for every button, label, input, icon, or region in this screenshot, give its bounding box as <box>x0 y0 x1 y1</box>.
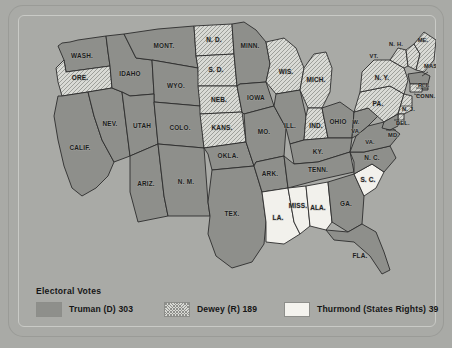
label-neb: NEB. <box>211 96 227 103</box>
label-ark: ARK. <box>262 170 278 177</box>
label-wyo: WYO. <box>167 82 185 89</box>
label-ky: KY. <box>313 148 324 155</box>
state-fla <box>326 224 390 274</box>
legend-item-dewey: Dewey (R) 189 <box>164 300 257 318</box>
label-minn: MINN. <box>240 42 259 49</box>
label-wis: WIS. <box>279 68 294 75</box>
label-ny: N. Y. <box>375 74 389 81</box>
label-mo: MO. <box>258 128 271 135</box>
label-sc: S. C. <box>360 176 375 183</box>
label-nh: N. H. <box>389 41 403 47</box>
label-nj: N. J. <box>402 106 415 112</box>
label-okla: OKLA. <box>218 152 239 159</box>
label-ariz: ARIZ. <box>137 180 155 187</box>
label-tex: TEX. <box>224 210 239 217</box>
legend-title: Electoral Votes <box>36 286 101 296</box>
label-nd: N. D. <box>206 36 222 43</box>
label-kans: KANS. <box>212 124 233 131</box>
label-ga: GA. <box>340 200 352 207</box>
label-wash: WASH. <box>71 52 93 59</box>
label-me: ME. <box>418 37 429 43</box>
map-legend: Electoral Votes Truman (D) 303 Dewey (R)… <box>18 286 436 326</box>
label-ind: IND. <box>309 122 323 129</box>
label-ri: R. I. <box>418 82 430 88</box>
label-vt: VT. <box>370 53 379 59</box>
state-tex <box>208 166 266 268</box>
legend-label-truman: Truman (D) 303 <box>69 304 133 314</box>
label-utah: UTAH <box>133 122 151 129</box>
electoral-map-figure: WASH. ORE. IDAHO MONT. WYO. NEV. UTAH CO… <box>0 0 452 348</box>
label-conn: CONN. <box>416 93 436 99</box>
legend-item-thurmond: Thurmond (States Rights) 39 <box>284 300 439 318</box>
legend-label-thurmond: Thurmond (States Rights) 39 <box>317 304 439 314</box>
label-ore: ORE. <box>72 74 88 81</box>
label-mont: MONT. <box>154 42 175 49</box>
legend-swatch-dewey <box>164 302 190 317</box>
label-ill: ILL. <box>284 122 296 129</box>
label-mich: MICH. <box>306 76 325 83</box>
label-va: VA. <box>365 139 375 145</box>
legend-label-dewey: Dewey (R) 189 <box>197 304 257 314</box>
label-calif: CALIF. <box>69 144 90 151</box>
label-fla: FLA. <box>353 252 368 259</box>
label-iowa: IOWA <box>247 94 265 101</box>
us-electoral-map-svg: WASH. ORE. IDAHO MONT. WYO. NEV. UTAH CO… <box>18 16 436 284</box>
state-minn <box>232 22 270 86</box>
legend-items: Truman (D) 303 Dewey (R) 189 Thurmond (S… <box>36 300 436 320</box>
label-idaho: IDAHO <box>119 70 141 77</box>
label-wva-line1: W. <box>352 119 359 125</box>
label-wva-line2: VA. <box>351 128 361 134</box>
label-mass: MASS. <box>424 63 436 69</box>
label-md: MD. <box>388 132 399 138</box>
label-la: LA. <box>273 214 284 221</box>
label-sd: S. D. <box>208 66 223 73</box>
label-ohio: OHIO <box>329 118 346 125</box>
state-wis <box>266 38 304 94</box>
label-colo: COLO. <box>169 124 190 131</box>
label-miss: MISS. <box>289 202 307 209</box>
label-nc: N. C. <box>364 154 380 161</box>
legend-item-truman: Truman (D) 303 <box>36 300 133 318</box>
label-del: DEL. <box>396 120 410 126</box>
label-nm: N. M. <box>178 178 194 185</box>
label-pa: PA. <box>373 100 384 107</box>
us-map-container: WASH. ORE. IDAHO MONT. WYO. NEV. UTAH CO… <box>18 16 436 284</box>
legend-swatch-thurmond <box>284 302 310 317</box>
label-nev: NEV. <box>102 120 117 127</box>
label-ala: ALA. <box>310 204 326 211</box>
label-tenn: TENN. <box>308 166 328 173</box>
legend-swatch-truman <box>36 302 62 317</box>
